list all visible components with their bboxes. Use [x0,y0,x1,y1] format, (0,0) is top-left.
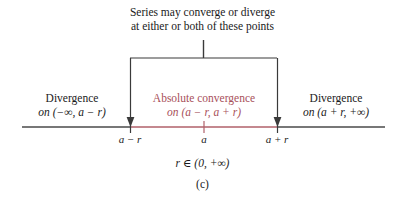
tick-label-a: a [169,133,239,146]
tick-label-a-minus-r: a − r [95,133,165,146]
interval-of-convergence-figure: Series may converge or diverge at either… [0,0,405,200]
region-right-title: Divergence [277,92,395,106]
region-mid-interval: on (a − r, a + r) [138,106,270,120]
panel-caption: (c) [0,178,405,192]
region-left-title: Divergence [14,92,130,106]
region-left-interval: on (−∞, a − r) [14,106,130,120]
region-label-absolute-convergence: Absolute convergence on (a − r, a + r) [138,92,270,119]
tick-label-a-plus-r: a + r [242,133,312,146]
region-label-right-divergence: Divergence on (a + r, +∞) [277,92,395,119]
region-right-interval: on (a + r, +∞) [277,106,395,120]
region-label-left-divergence: Divergence on (−∞, a − r) [14,92,130,119]
region-mid-title: Absolute convergence [138,92,270,106]
domain-note: r ∈ (0, +∞) [0,157,405,171]
